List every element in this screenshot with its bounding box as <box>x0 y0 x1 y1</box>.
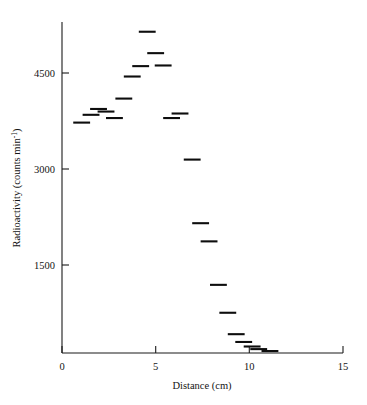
y-axis-title-main: Radioactivity (counts min <box>11 138 23 248</box>
x-axis-title: Distance (cm) <box>172 380 232 392</box>
y-tick-label-4500: 4500 <box>34 68 55 79</box>
y-axis-ticks <box>62 73 69 265</box>
y-tick-labels: 4500 3000 1500 <box>34 68 55 271</box>
x-tick-label-10: 10 <box>244 361 255 372</box>
axes-group <box>62 22 343 353</box>
y-axis-title-close: ) <box>11 128 23 132</box>
x-axis-ticks <box>62 346 343 353</box>
radioactivity-distance-plot: 4500 3000 1500 0 5 10 15 Distance (cm) R… <box>0 0 367 405</box>
y-tick-label-3000: 3000 <box>34 164 55 175</box>
x-tick-label-0: 0 <box>59 361 64 372</box>
x-tick-labels: 0 5 10 15 <box>59 361 348 372</box>
y-axis-title: Radioactivity (counts min-1) <box>10 128 23 247</box>
chart-figure: 4500 3000 1500 0 5 10 15 Distance (cm) R… <box>0 0 367 405</box>
data-markers-group <box>73 32 278 351</box>
x-tick-label-15: 15 <box>338 361 349 372</box>
y-tick-label-1500: 1500 <box>34 260 55 271</box>
x-tick-label-5: 5 <box>153 361 158 372</box>
